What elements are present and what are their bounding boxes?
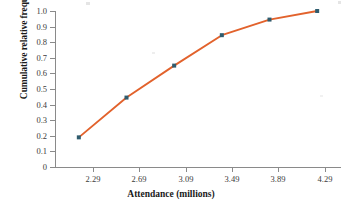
data-point (172, 64, 176, 68)
scan-speck (338, 1, 341, 4)
scan-speck (86, 2, 90, 5)
series-line (79, 11, 317, 137)
data-point (220, 33, 224, 37)
data-point (315, 9, 319, 13)
scan-speck (320, 95, 323, 97)
plot-area (0, 0, 342, 210)
series-markers (77, 9, 319, 139)
data-point (268, 18, 272, 22)
scan-speck (152, 52, 155, 54)
data-point (77, 135, 81, 139)
chart-container: Cumulative relative frequency Attendance… (0, 0, 342, 210)
data-point (125, 96, 129, 100)
